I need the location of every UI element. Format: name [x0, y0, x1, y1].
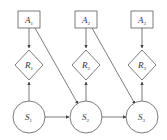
- influence-diagram: A1 A2 A3 R1 R2 R3 S1 S2 S3: [0, 0, 167, 140]
- diagram: A1 A2 A3 R1 R2 R3 S1 S2 S3: [0, 0, 167, 140]
